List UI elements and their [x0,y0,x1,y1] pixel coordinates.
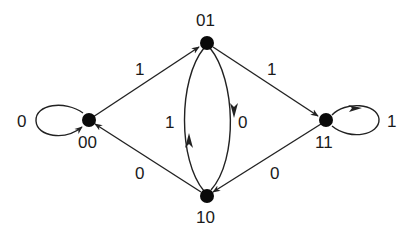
node-label: 01 [196,11,215,30]
edge-00-to-01: 1 [93,47,199,117]
edge-10-to-01-arc: 1 [165,48,204,191]
edge-label: 1 [387,112,396,131]
edge-00-00-self-loop: 0 [17,105,83,135]
state-diagram: 0 1 1 0 1 0 0 1 00 [0,0,410,237]
edge-label: 1 [267,60,276,79]
edge-label: 0 [270,164,279,183]
edge-label: 0 [17,112,26,131]
node-11: 11 [315,113,333,152]
edge-11-to-10: 0 [213,124,321,192]
node-label: 11 [315,133,333,152]
edge-label: 1 [165,113,174,132]
edge-01-to-10-arc: 0 [210,48,247,190]
arrowhead-icon [230,103,238,118]
edge-01-to-11: 1 [213,47,318,116]
edge-label: 0 [238,113,247,132]
node-00: 00 [78,113,97,152]
edge-label: 1 [135,60,144,79]
node-label: 00 [78,133,97,152]
node-label: 10 [196,208,215,227]
node-01: 01 [196,11,215,50]
edge-11-11-self-loop: 1 [332,105,396,135]
node-10: 10 [196,189,215,227]
edge-label: 0 [135,164,144,183]
